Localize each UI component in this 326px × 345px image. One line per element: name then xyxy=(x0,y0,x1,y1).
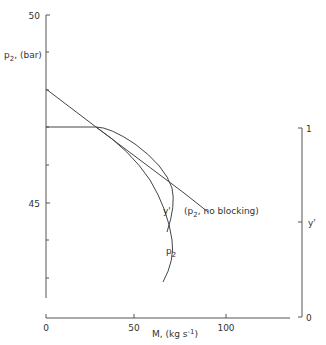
y2-axis-title: y' xyxy=(308,218,316,228)
right-y-axis xyxy=(298,128,302,317)
annotation-no-blocking: (p2, no blocking) xyxy=(184,206,259,219)
annotation-y-prime: y' xyxy=(163,206,171,216)
curves xyxy=(46,89,208,282)
annotation-p2: p2 xyxy=(166,246,176,259)
left-y-axis xyxy=(46,15,50,298)
y-tick-45: 45 xyxy=(29,199,40,209)
y2-tick-1: 1 xyxy=(306,124,312,134)
y-axis-title: p2, (bar) xyxy=(4,50,42,63)
series-p2 xyxy=(96,127,173,282)
x-axis-title: M, (kg s-1) xyxy=(152,328,198,339)
y2-tick-0: 0 xyxy=(306,313,312,323)
x-tick-100: 100 xyxy=(217,323,234,333)
series-y-prime xyxy=(46,127,173,232)
y-tick-50: 50 xyxy=(29,11,41,21)
chart: 50 45 0 50 100 1 0 p2, (bar) M, (kg s-1)… xyxy=(0,0,326,345)
x-tick-0: 0 xyxy=(43,323,49,333)
x-tick-50: 50 xyxy=(128,323,140,333)
series-no-blocking xyxy=(46,89,208,212)
x-axis xyxy=(46,314,290,318)
